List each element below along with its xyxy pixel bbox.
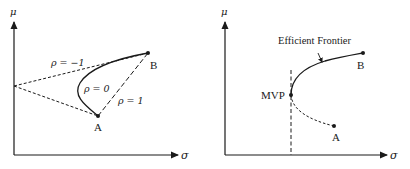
right-x-axis-label: σ xyxy=(390,149,398,162)
left-point-b-label: B xyxy=(150,59,157,71)
right-panel: μ σ MVP B A Efficient Frontier xyxy=(221,6,398,162)
mvp-point xyxy=(289,93,293,97)
left-point-a xyxy=(96,114,100,118)
mvp-label: MVP xyxy=(261,89,285,101)
efficient-frontier-curve xyxy=(291,53,363,95)
left-panel: μ σ A B ρ = −1 ρ = 0 ρ = 1 xyxy=(10,6,189,162)
diagram-canvas: μ σ A B ρ = −1 ρ = 0 ρ = 1 μ σ xyxy=(0,0,410,169)
efficient-frontier-label: Efficient Frontier xyxy=(278,35,351,46)
left-point-b xyxy=(146,51,150,55)
left-y-axis-label: μ xyxy=(10,6,17,17)
rho-1-label: ρ = 1 xyxy=(117,95,144,106)
right-point-a-label: A xyxy=(332,131,340,143)
left-point-a-label: A xyxy=(94,121,102,133)
right-point-a xyxy=(332,124,336,128)
right-point-b xyxy=(361,51,365,55)
rho-neg1-label: ρ = −1 xyxy=(50,57,85,68)
right-point-b-label: B xyxy=(357,59,364,71)
left-x-axis-label: σ xyxy=(181,149,189,162)
inefficient-branch-curve xyxy=(291,95,334,126)
rho-0-label: ρ = 0 xyxy=(83,83,110,94)
efficient-frontier-pointer-arrow xyxy=(318,53,322,62)
right-y-axis-label: μ xyxy=(221,6,228,17)
